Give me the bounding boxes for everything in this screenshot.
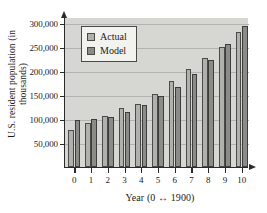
x-axis-tick [74,168,75,173]
y-axis-tick-label: 250,000 [29,43,58,53]
bar-actual-3 [119,108,125,167]
bar-actual-8 [202,58,208,167]
legend-label-actual: Actual [100,32,127,42]
legend-swatch-actual [87,33,95,41]
y-axis-arrow-icon [61,11,67,18]
x-axis-tick [91,168,92,173]
y-axis-tick [60,48,65,49]
x-axis-tick-label: 10 [237,175,246,185]
y-axis-tick [60,120,65,121]
y-axis-tick-label: 200,000 [29,67,58,77]
x-axis-tick [242,168,243,173]
y-axis-tick-label: 100,000 [29,115,58,125]
bar-model-8 [208,60,214,167]
bar-model-3 [125,112,131,167]
y-axis-tick [60,72,65,73]
y-axis-title: U.S. resident population (in thousands) [7,14,29,154]
x-axis-tick [175,168,176,173]
x-axis-tick [191,168,192,173]
x-axis-tick-label: 4 [139,175,144,185]
x-axis-tick-label: 9 [223,175,228,185]
legend-item-model: Model [87,44,127,58]
x-axis-tick [108,168,109,173]
bar-model-9 [225,44,231,167]
chart-legend: Actual Model [81,26,137,62]
population-bar-chart: U.S. resident population (in thousands) … [0,0,267,213]
bar-actual-5 [152,94,158,167]
bar-model-10 [242,26,248,167]
bar-actual-4 [135,104,141,167]
plot-area: 50,000100,000150,000200,000250,000300,00… [64,18,248,168]
bar-model-4 [142,105,148,167]
x-axis-tick-label: 1 [89,175,94,185]
bar-actual-7 [186,69,192,167]
x-axis-tick-label: 5 [156,175,161,185]
bar-actual-1 [85,123,91,167]
bar-actual-6 [169,81,175,167]
bar-actual-0 [68,130,74,167]
bar-model-1 [91,119,97,167]
bar-model-0 [75,120,81,167]
x-axis-tick [141,168,142,173]
legend-swatch-model [87,47,95,55]
x-axis-tick-label: 8 [206,175,211,185]
x-axis-tick-label: 6 [172,175,177,185]
y-axis-tick-label: 150,000 [29,91,58,101]
x-axis-tick-label: 2 [106,175,111,185]
y-axis-tick [60,144,65,145]
x-axis-tick [225,168,226,173]
x-axis-tick [208,168,209,173]
legend-item-actual: Actual [87,30,127,44]
legend-label-model: Model [100,46,126,56]
x-axis-tick [125,168,126,173]
y-axis-tick-label: 300,000 [29,19,58,29]
y-axis-tick [60,24,65,25]
x-axis-tick-label: 3 [122,175,127,185]
bar-actual-10 [236,32,242,167]
x-axis-arrow-icon [249,164,256,170]
x-axis-title: Year (0 ↔ 1900) [60,192,260,203]
y-axis-tick [60,96,65,97]
x-axis-tick [158,168,159,173]
bar-actual-2 [102,116,108,167]
x-axis-tick-label: 7 [189,175,194,185]
bar-model-7 [192,74,198,167]
bar-actual-9 [219,47,225,167]
bar-model-6 [175,87,181,167]
x-axis-tick-label: 0 [72,175,77,185]
bar-model-2 [108,117,114,167]
gridline [65,24,249,25]
bar-model-5 [158,96,164,167]
y-axis-tick-label: 50,000 [34,139,58,149]
